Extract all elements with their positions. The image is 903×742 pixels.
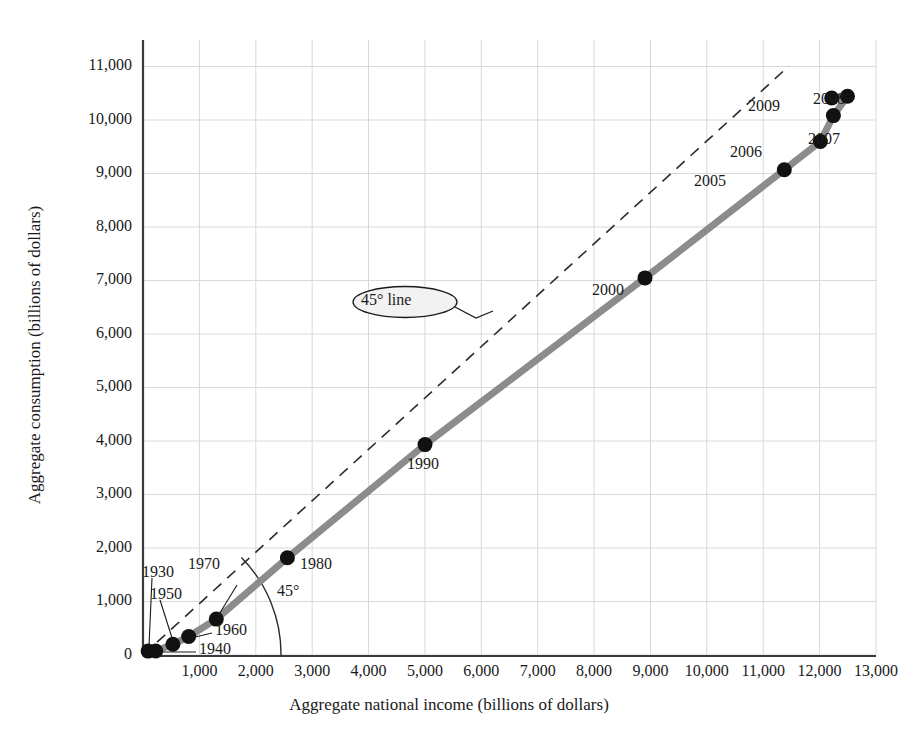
point-label-2007: 2007: [808, 130, 840, 148]
marker-1980: [280, 550, 295, 565]
marker-2007: [826, 108, 841, 123]
data-point-markers: [141, 89, 855, 659]
y-tick-2000: 2,000: [40, 538, 132, 556]
marker-1960: [181, 629, 196, 644]
y-tick-3000: 3,000: [40, 484, 132, 502]
point-label-1960: 1960: [215, 621, 247, 639]
marker-1990: [418, 437, 433, 452]
point-label-1930: 1930: [142, 563, 174, 581]
point-label-1950: 1950: [150, 585, 182, 603]
y-tick-1000: 1,000: [40, 591, 132, 609]
y-tick-9000: 9,000: [40, 163, 132, 181]
point-label-1940: 1940: [199, 640, 231, 658]
marker-2000: [638, 270, 653, 285]
point-label-1970: 1970: [188, 555, 220, 573]
y-tick-6000: 6,000: [40, 324, 132, 342]
x-axis-title: Aggregate national income (billions of d…: [0, 695, 898, 715]
y-tick-5000: 5,000: [40, 377, 132, 395]
grid-lines: [143, 40, 876, 655]
angle-45-label: 45°: [277, 582, 299, 600]
point-label-2000: 2000: [592, 281, 624, 299]
point-label-2005: 2005: [694, 172, 726, 190]
point-label-1980: 1980: [300, 555, 332, 573]
marker-1940: [148, 644, 163, 659]
y-tick-4000: 4,000: [40, 431, 132, 449]
y-tick-11000: 11,000: [40, 56, 132, 74]
point-label-2006: 2006: [730, 143, 762, 161]
point-label-1990: 1990: [407, 455, 439, 473]
series-line: [148, 96, 847, 651]
x-tick-13000: 13,000: [833, 662, 903, 680]
callout-45-line-label: 45° line: [361, 291, 411, 309]
y-tick-8000: 8,000: [40, 217, 132, 235]
reference-line-45deg: [143, 66, 789, 655]
point-label-2009: 2009: [748, 97, 780, 115]
axis-lines: [143, 40, 876, 656]
point-label-2008: 2008: [813, 90, 845, 108]
y-axis-title: Aggregate consumption (billions of dolla…: [25, 115, 45, 595]
y-tick-7000: 7,000: [40, 270, 132, 288]
y-tick-10000: 10,000: [40, 110, 132, 128]
marker-2005: [777, 162, 792, 177]
y-tick-0: 0: [40, 645, 132, 663]
